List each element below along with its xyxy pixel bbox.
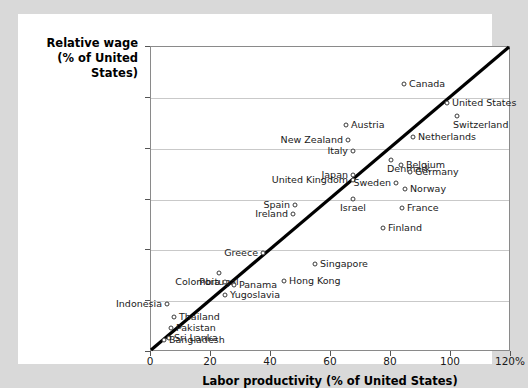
data-point-label: Germany [415,167,459,177]
reference-line-45deg [151,47,509,350]
x-tick-mark [390,351,391,356]
data-point[interactable] [223,293,228,298]
plot-area: CanadaUnited StatesSwitzerlandAustriaNew… [150,46,510,351]
data-point[interactable] [408,170,413,175]
data-point[interactable] [403,187,408,192]
x-tick-label: 0 [147,355,154,367]
x-tick-label: 100 [440,355,460,367]
data-point-label: Thailand [179,312,220,322]
data-point[interactable] [282,279,287,284]
data-point[interactable] [217,271,222,276]
x-axis-title: Labor productivity (% of United States) [150,374,510,388]
data-point[interactable] [394,181,399,186]
y-axis-title-line-2: (% of United [26,51,138,66]
data-point-label: Israel [340,203,366,213]
data-point-label: Bangladesh [169,335,225,345]
data-point-label: Switzerland [453,120,508,130]
data-point[interactable] [313,262,318,267]
data-point[interactable] [261,251,266,256]
data-point[interactable] [402,82,407,87]
data-point[interactable] [293,203,298,208]
data-point[interactable] [346,138,351,143]
x-tick-mark [270,351,271,356]
x-tick-label: 120% [495,355,525,367]
data-point-label: Ireland [255,209,288,219]
data-point-label: United Kingdom [272,175,348,185]
data-point-label: France [407,203,439,213]
x-tick-mark [330,351,331,356]
data-point-label: Hong Kong [289,276,341,286]
x-tick-label: 80 [383,355,396,367]
data-point-label: United States [452,98,516,108]
x-tick-label: 20 [203,355,216,367]
data-point-label: Yugoslavia [230,290,280,300]
data-point-label: Singapore [320,259,368,269]
data-point[interactable] [381,226,386,231]
chart-card: Relative wage (% of United States) 02040… [18,14,492,364]
data-point-label: Indonesia [116,299,162,309]
x-tick-mark [510,351,511,356]
data-point[interactable] [232,283,237,288]
data-point-label: Canada [409,79,445,89]
y-axis-title-line-1: Relative wage [26,36,138,51]
y-axis-title: Relative wage (% of United States) [26,36,138,81]
x-tick-label: 60 [323,355,336,367]
data-point[interactable] [169,326,174,331]
data-point-label: New Zealand [281,135,343,145]
data-point[interactable] [400,206,405,211]
data-point[interactable] [389,158,394,163]
data-point-label: Netherlands [418,132,476,142]
data-point[interactable] [291,212,296,217]
x-tick-mark [450,351,451,356]
data-point[interactable] [162,338,167,343]
data-point[interactable] [172,315,177,320]
data-point[interactable] [344,123,349,128]
data-point[interactable] [223,280,228,285]
data-point-label: Sweden [353,178,391,188]
data-point[interactable] [351,149,356,154]
data-point-label: Italy [327,146,348,156]
data-point[interactable] [455,114,460,119]
data-point-label: Finland [388,223,422,233]
data-point[interactable] [165,302,170,307]
data-point-label: Greece [224,248,258,258]
x-tick-label: 40 [263,355,276,367]
y-axis-title-line-3: States) [26,66,138,81]
x-tick-mark [210,351,211,356]
data-point[interactable] [399,163,404,168]
data-point[interactable] [411,135,416,140]
data-point-label: Colombia [175,277,220,287]
data-point[interactable] [445,101,450,106]
data-point-label: Norway [410,184,446,194]
x-tick-mark [150,351,151,356]
data-point-label: Austria [351,120,385,130]
data-point[interactable] [351,197,356,202]
